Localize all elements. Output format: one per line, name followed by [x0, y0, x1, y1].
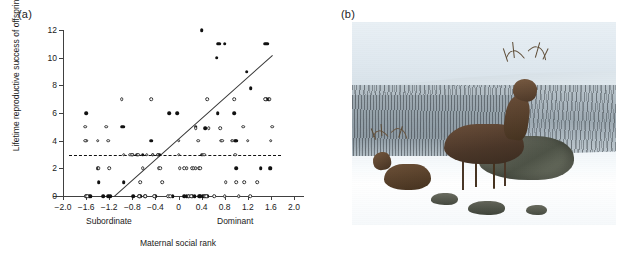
data-point-open [196, 139, 200, 143]
data-point-filled [193, 194, 197, 198]
data-point-open [237, 194, 241, 198]
data-point-open [120, 97, 124, 101]
axis-annotation-dominant: Dominant [217, 216, 253, 226]
data-point-open [199, 167, 203, 171]
data-point-open [177, 153, 181, 157]
y-tick [59, 30, 63, 31]
data-point-open [177, 139, 181, 143]
data-point-filled [132, 194, 136, 198]
data-point-open [83, 125, 87, 129]
data-point-filled [121, 125, 125, 129]
data-point-open [136, 153, 140, 157]
data-point-open [137, 194, 141, 198]
data-point-open [151, 153, 155, 157]
data-point-open [269, 139, 273, 143]
data-point-open [85, 194, 89, 198]
data-point-filled [269, 167, 273, 171]
data-point-open [185, 167, 189, 171]
data-point-filled [97, 180, 101, 184]
data-point-open [83, 139, 87, 143]
data-point-filled [234, 167, 238, 171]
data-point-open [143, 194, 147, 198]
data-point-open [152, 194, 156, 198]
y-tick-label: 10 [48, 53, 57, 63]
data-point-filled [89, 194, 93, 198]
data-point-open [221, 139, 225, 143]
data-point-open [206, 97, 210, 101]
data-point-open [246, 139, 250, 143]
data-point-open [194, 126, 198, 130]
stag-small-body [384, 164, 432, 190]
data-point-open [202, 153, 206, 157]
rock-small-2 [468, 201, 505, 215]
data-point-filled [176, 111, 180, 115]
y-tick [59, 58, 63, 59]
data-point-filled [167, 111, 171, 115]
x-tick-label: 0.4 [196, 202, 208, 212]
y-axis-line [63, 30, 64, 196]
data-point-filled [109, 194, 113, 198]
panel-a-chart: (a) Lifetime reproductive success of off… [0, 0, 330, 259]
data-point-open [233, 153, 237, 157]
data-point-open [106, 139, 110, 143]
x-tick-label: 1.6 [265, 202, 277, 212]
data-point-open [189, 194, 193, 198]
data-point-open [232, 97, 236, 101]
data-point-open [96, 139, 100, 143]
figure-root: (a) Lifetime reproductive success of off… [0, 0, 623, 259]
data-point-filled [232, 111, 236, 115]
data-point-filled [259, 167, 263, 171]
y-tick-label: 8 [52, 80, 57, 90]
data-point-open [241, 125, 245, 129]
x-tick-label: −0.4 [147, 202, 164, 212]
daughters-regression-line [69, 155, 282, 156]
data-point-open [248, 194, 252, 198]
y-tick [59, 141, 63, 142]
data-point-filled [216, 111, 220, 115]
x-tick-label: −1.2 [101, 202, 118, 212]
data-point-open [268, 97, 272, 101]
data-point-filled [84, 111, 88, 115]
data-point-open [255, 180, 259, 184]
data-point-open [243, 180, 247, 184]
data-point-open [224, 180, 228, 184]
y-tick [59, 168, 63, 169]
data-point-open [156, 153, 160, 157]
data-point-open [122, 153, 126, 157]
plot-area: 024681012 −2.0−1.6−1.2−0.8−0.400.40.81.2… [63, 30, 294, 196]
x-tick [179, 196, 180, 200]
data-point-open [234, 180, 238, 184]
data-point-open [131, 153, 135, 157]
rock-small-3 [526, 205, 547, 215]
data-point-open [178, 167, 182, 171]
data-point-filled [141, 153, 145, 157]
x-tick [294, 196, 295, 200]
data-point-open [139, 180, 143, 184]
data-point-filled [150, 139, 154, 143]
axis-annotation-subordinate: Subordinate [86, 216, 132, 226]
data-point-filled [122, 180, 126, 184]
x-tick-label: −2.0 [55, 202, 72, 212]
y-tick-label: 2 [52, 163, 57, 173]
deer-photograph [352, 22, 616, 225]
x-axis-label: Maternal social rank [63, 238, 293, 248]
x-tick-label: −1.6 [78, 202, 95, 212]
data-point-open [204, 194, 208, 198]
data-point-open [150, 97, 154, 101]
data-point-open [270, 125, 274, 129]
data-point-open [223, 194, 227, 198]
data-point-open [141, 167, 145, 171]
y-tick-label: 0 [52, 191, 57, 201]
data-point-open [213, 194, 217, 198]
data-point-filled [223, 42, 227, 46]
data-point-open [105, 125, 109, 129]
x-tick [63, 196, 64, 200]
data-point-open [263, 97, 267, 101]
data-point-filled [200, 28, 204, 32]
data-point-open [218, 126, 222, 130]
data-point-open [207, 126, 211, 130]
data-point-filled [215, 56, 219, 60]
x-tick-label: 0.8 [219, 202, 231, 212]
y-axis-label: Lifetime reproductive success of offspri… [11, 0, 21, 158]
data-point-open [231, 139, 235, 143]
